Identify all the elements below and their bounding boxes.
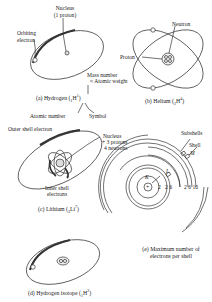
label-shell: Shell bbox=[189, 142, 201, 148]
caption-max-electrons-2: electrons per shell bbox=[130, 253, 212, 259]
caption-lithium: (c) Lithium (3Li7) bbox=[38, 206, 79, 212]
hydrogen-isotope-orbit bbox=[21, 231, 106, 293]
label-nucleus-sign: + bbox=[146, 184, 149, 190]
label-inner-electrons: electrons bbox=[42, 191, 72, 197]
label-subshells: Subshells bbox=[181, 130, 202, 136]
label-m-counts: 2 6 10 bbox=[184, 184, 198, 190]
label-neutrons: 4 neutrons bbox=[104, 145, 127, 151]
label-nucleus-detail-a: (1 proton) bbox=[50, 12, 80, 18]
label-outer-shell-electron: Outer shell electron bbox=[8, 126, 52, 132]
label-l-counts: 2 6 bbox=[165, 184, 172, 190]
label-atomic-weight: ≈ Atomic weight bbox=[90, 78, 128, 84]
label-shell-K: K bbox=[145, 174, 149, 180]
label-shell-M: M bbox=[190, 150, 195, 156]
label-k-count: 2 bbox=[158, 184, 161, 190]
label-electron: electron bbox=[17, 37, 35, 43]
label-atomic-number: Atomic number bbox=[30, 113, 65, 119]
caption-hydrogen-isotope: (d) Hydrogen isotope (1H2) bbox=[28, 290, 91, 296]
label-neutron: Neutron bbox=[172, 21, 190, 27]
caption-hydrogen: (a) Hydrogen (1H1) bbox=[36, 95, 81, 101]
caption-helium: (b) Helium (2H4) bbox=[145, 98, 184, 104]
label-orbiting: Orbiting bbox=[17, 30, 36, 36]
helium-orbits bbox=[123, 18, 212, 100]
caption-max-electrons-1: (e) Maximum number of bbox=[130, 246, 212, 252]
label-proton: Proton bbox=[120, 54, 135, 60]
label-symbol: Symbol bbox=[89, 113, 106, 119]
label-shell-L: L bbox=[166, 168, 169, 174]
label-nucleus-a: Nucleus bbox=[52, 5, 78, 11]
